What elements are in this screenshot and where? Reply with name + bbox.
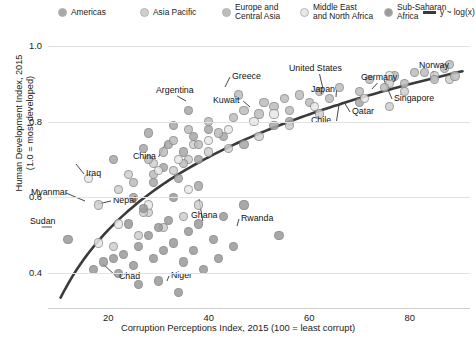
scatter-point — [169, 238, 178, 247]
scatter-point — [229, 242, 238, 251]
y-gridline — [48, 46, 470, 47]
scatter-point — [63, 235, 72, 244]
scatter-point — [159, 246, 168, 255]
scatter-point — [184, 106, 193, 115]
annotation-leader-line — [177, 96, 186, 101]
scatter-point — [159, 147, 168, 156]
scatter-point — [224, 144, 233, 153]
annotation-leader-line — [167, 276, 169, 281]
scatter-point — [259, 98, 268, 107]
scatter-point — [129, 261, 138, 270]
scatter-point — [254, 132, 263, 141]
scatter-point — [109, 242, 118, 251]
x-axis-label: Corruption Perceptions Index, 2015 (100 … — [0, 322, 476, 333]
scatter-point — [169, 136, 178, 145]
scatter-point — [385, 102, 394, 111]
scatter-point — [269, 109, 278, 118]
scatter-point — [224, 125, 233, 134]
scatter-point — [219, 212, 228, 221]
scatter-point — [94, 200, 103, 209]
x-axis-line — [48, 308, 470, 309]
scatter-point — [184, 227, 193, 236]
scatter-point — [295, 90, 304, 99]
scatter-point — [164, 216, 173, 225]
scatter-point — [380, 83, 389, 92]
annotation-label-qatar: Qatar — [352, 107, 374, 117]
annotation-label-japan: Japan — [311, 85, 335, 95]
scatter-point — [109, 254, 118, 263]
scatter-point — [214, 128, 223, 137]
scatter-point — [149, 254, 158, 263]
y-tick-label: 0.4 — [16, 267, 42, 278]
annotation-label-norway: Norway — [419, 61, 449, 71]
scatter-point — [134, 242, 143, 251]
scatter-point — [114, 185, 123, 194]
scatter-point — [209, 235, 218, 244]
scatter-point — [179, 212, 188, 221]
annotation-label-united-states: United States — [289, 64, 342, 74]
scatter-point — [335, 83, 344, 92]
scatter-point — [194, 140, 203, 149]
scatter-point — [134, 231, 143, 240]
annotation-label-singapore: Singapore — [394, 94, 434, 104]
annotation-leader-line — [237, 219, 239, 226]
annotation-label-germany: Germany — [361, 73, 397, 83]
scatter-point — [239, 200, 248, 209]
scatter-point — [179, 257, 188, 266]
y-gridline — [48, 273, 470, 274]
y-axis-label: Human Development Index, 2015(1.0 = most… — [14, 28, 36, 218]
scatter-point — [430, 75, 439, 84]
scatter-point — [174, 288, 183, 297]
scatter-point — [204, 136, 213, 145]
scatter-point — [124, 219, 133, 228]
annotation-leader-line — [225, 77, 230, 87]
scatter-point — [154, 276, 163, 285]
scatter-point — [360, 94, 369, 103]
annotation-label-sudan: Sudan — [30, 217, 55, 227]
scatter-point — [144, 128, 153, 137]
scatter-point — [109, 155, 118, 164]
scatter-point — [194, 200, 203, 209]
scatter-point — [274, 231, 283, 240]
scatter-point — [114, 219, 123, 228]
scatter-point — [144, 231, 153, 240]
annotation-label-china: China — [133, 152, 156, 162]
scatter-point — [410, 68, 419, 77]
scatter-point — [174, 174, 183, 183]
scatter-point — [239, 140, 248, 149]
scatter-point — [189, 246, 198, 255]
scatter-point — [450, 71, 459, 80]
annotation-leader-line — [372, 83, 377, 89]
annotation-label-kuwait: Kuwait — [213, 96, 239, 106]
scatter-point — [310, 102, 319, 111]
annotation-label-rwanda: Rwanda — [241, 214, 273, 224]
plot-overlay-svg — [0, 0, 476, 341]
scatter-point — [400, 79, 409, 88]
annotation-label-iraq: Iraq — [86, 169, 101, 179]
plot-area: ArgentinaGreeceKuwaitUnited StatesJapanG… — [0, 0, 476, 341]
scatter-point — [325, 94, 334, 103]
annotation-leader-line — [337, 105, 340, 121]
scatter-point — [239, 106, 248, 115]
annotation-label-ghana: Ghana — [191, 211, 217, 221]
annotation-leader-line — [344, 102, 350, 112]
y-gridline — [48, 197, 470, 198]
scatter-point — [149, 178, 158, 187]
annotation-label-chile: Chile — [311, 116, 331, 126]
annotation-label-greece: Greece — [232, 72, 261, 82]
y-gridline — [48, 122, 470, 123]
annotation-leader-line — [76, 164, 84, 174]
scatter-point — [129, 178, 138, 187]
scatter-point — [229, 113, 238, 122]
scatter-point — [280, 94, 289, 103]
scatter-point — [194, 219, 203, 228]
scatter-point — [204, 147, 213, 156]
annotation-label-argentina: Argentina — [156, 86, 194, 96]
scatter-point — [184, 125, 193, 134]
scatter-point — [119, 250, 128, 259]
scatter-point — [94, 238, 103, 247]
scatter-point — [99, 257, 108, 266]
scatter-point — [184, 185, 193, 194]
scatter-point — [285, 106, 294, 115]
scatter-point — [214, 254, 223, 263]
